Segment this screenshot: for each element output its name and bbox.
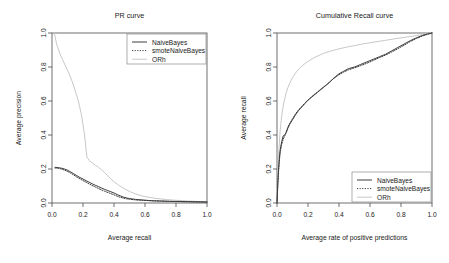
x-tick-label: 0.8 [396, 211, 405, 218]
y-tick-label: 0.2 [265, 164, 272, 173]
y-tick-label: 0.2 [40, 164, 47, 173]
x-tick-label: 0.4 [109, 211, 118, 218]
y-tick-label: 0.6 [40, 96, 47, 105]
pr-curve-plot: PR curve0.00.20.40.60.81.00.00.20.40.60.… [0, 0, 224, 263]
legend-label-naivebayes: NaiveBayes [152, 39, 188, 47]
x-axis-label: Average recall [108, 234, 152, 242]
x-tick-label: 0.2 [78, 211, 87, 218]
cumulative-recall-plot: Cumulative Recall curve0.00.20.40.60.81.… [225, 0, 449, 263]
y-axis-label: Average precision [15, 91, 23, 146]
y-axis-label: Average recall [240, 96, 248, 140]
y-tick-label: 0.8 [40, 62, 47, 71]
cumulative-recall-panel: Cumulative Recall curve0.00.20.40.60.81.… [225, 0, 449, 263]
y-tick-label: 1.0 [40, 28, 47, 37]
y-tick-label: 0.6 [265, 96, 272, 105]
legend: NaiveBayessmoteNaiveBayesORh [127, 34, 206, 64]
x-tick-label: 0.2 [303, 211, 312, 218]
legend-label-orh: ORh [377, 194, 391, 201]
x-tick-label: 0.6 [365, 211, 374, 218]
y-tick-label: 0.8 [265, 62, 272, 71]
y-tick-label: 0.4 [265, 130, 272, 139]
legend-label-smotenaivebayes: smoteNaiveBayes [377, 185, 431, 193]
x-tick-label: 0.4 [334, 211, 343, 218]
x-tick-label: 0.6 [140, 211, 149, 218]
series-line-naivebayes [55, 167, 207, 202]
x-tick-label: 0.0 [47, 211, 56, 218]
legend-label-naivebayes: NaiveBayes [377, 177, 413, 185]
y-tick-label: 1.0 [265, 28, 272, 37]
x-tick-label: 0.0 [272, 211, 281, 218]
y-tick-label: 0.0 [40, 198, 47, 207]
x-tick-label: 1.0 [427, 211, 436, 218]
x-tick-label: 1.0 [202, 211, 211, 218]
y-tick-label: 0.4 [40, 130, 47, 139]
legend: NaiveBayessmoteNaiveBayesORh [352, 172, 431, 202]
pr-curve-panel: PR curve0.00.20.40.60.81.00.00.20.40.60.… [0, 0, 224, 263]
chart-title: PR curve [115, 11, 145, 20]
legend-label-orh: ORh [152, 56, 166, 63]
x-tick-label: 0.8 [171, 211, 180, 218]
y-tick-label: 0.0 [265, 198, 272, 207]
chart-title: Cumulative Recall curve [316, 11, 394, 20]
series-line-smotenaivebayes [55, 168, 207, 202]
legend-label-smotenaivebayes: smoteNaiveBayes [152, 47, 206, 55]
x-axis-label: Average rate of positive predictions [301, 234, 408, 242]
